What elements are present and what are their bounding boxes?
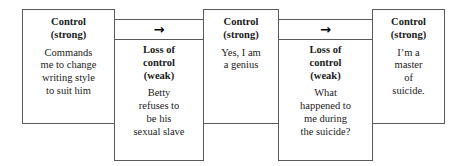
diagram-node-control-strong-1: Control (strong) Commands me to change w…	[22, 9, 115, 124]
diagram-node-control-strong-3: Control (strong) I’m a master of suicide…	[372, 9, 445, 124]
node-content: Loss of control (weak) Betty refuses to …	[115, 40, 203, 160]
diagram-node-control-strong-2: Control (strong) Yes, I am a genius	[203, 9, 279, 124]
node-content: Loss of control (weak) What happened to …	[279, 40, 372, 160]
node-title: Control (strong)	[223, 16, 258, 42]
arrow-right-icon: →	[115, 20, 203, 40]
node-content: Control (strong) Yes, I am a genius	[204, 10, 278, 123]
node-text: I’m a master of suicide.	[392, 47, 424, 98]
diagram-node-loss-of-control-weak-2: → Loss of control (weak) What happened t…	[278, 19, 373, 161]
node-text: What happened to me during the suicide?	[300, 87, 351, 138]
node-title: Control (strong)	[391, 16, 426, 42]
node-title: Loss of control (weak)	[310, 44, 342, 82]
node-title: Control (strong)	[51, 16, 86, 42]
diagram-node-loss-of-control-weak-1: → Loss of control (weak) Betty refuses t…	[114, 19, 204, 161]
node-text: Commands me to change writing style to s…	[41, 47, 97, 98]
node-text: Yes, I am a genius	[221, 47, 260, 73]
node-title: Loss of control (weak)	[143, 44, 175, 82]
arrow-right-icon: →	[279, 20, 372, 40]
node-content: Control (strong) I’m a master of suicide…	[373, 10, 444, 123]
node-text: Betty refuses to be his sexual slave	[133, 87, 184, 138]
flow-diagram: Control (strong) Commands me to change w…	[0, 0, 465, 166]
node-content: Control (strong) Commands me to change w…	[23, 10, 114, 123]
